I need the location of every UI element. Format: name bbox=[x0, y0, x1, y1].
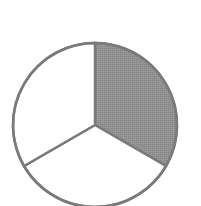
fraction-circle-diagram bbox=[0, 0, 201, 206]
